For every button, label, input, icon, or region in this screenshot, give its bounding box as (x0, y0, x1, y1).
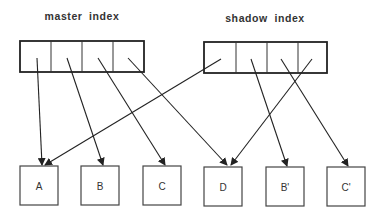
shadow-index-frame (204, 42, 327, 73)
leaf-c: C (143, 166, 181, 205)
arrow-shadow-to-d (231, 59, 312, 165)
shadow-index-box (204, 42, 327, 73)
leaf-label: D (219, 182, 226, 193)
leaf-label: B' (281, 182, 290, 193)
leaf-label: B (97, 181, 104, 192)
arrow-master-to-a (37, 58, 42, 165)
arrow-shadow-to-b-prime (251, 59, 287, 166)
leaf-b-prime: B' (266, 167, 304, 206)
leaf-c-prime: C' (327, 167, 365, 206)
master-index-box (20, 41, 144, 72)
leaf-d: D (204, 167, 242, 206)
leaf-label: C (158, 181, 165, 192)
leaf-a: A (20, 166, 58, 205)
leaf-label: A (36, 181, 43, 192)
shadow-index-diagram: master index shadow index A B C D (0, 0, 384, 218)
master-index-title: master index (45, 10, 120, 22)
leaf-label: C' (341, 182, 350, 193)
arrow-master-to-c (98, 58, 165, 165)
arrow-shadow-to-c-prime (281, 59, 348, 166)
arrow-shadow-to-a (45, 59, 221, 165)
shadow-index-title: shadow index (225, 12, 305, 24)
arrow-master-to-d (128, 58, 227, 165)
leaf-b: B (81, 166, 119, 205)
